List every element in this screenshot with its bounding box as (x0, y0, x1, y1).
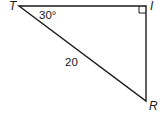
triangle-figure: T I R 30° 20 (0, 0, 162, 117)
side-label-20: 20 (65, 56, 78, 68)
vertex-label-i: I (150, 0, 154, 13)
angle-label-30: 30° (39, 9, 56, 21)
vertex-label-t: T (9, 0, 18, 13)
vertex-label-r: R (149, 99, 158, 113)
right-angle-marker (139, 6, 146, 13)
